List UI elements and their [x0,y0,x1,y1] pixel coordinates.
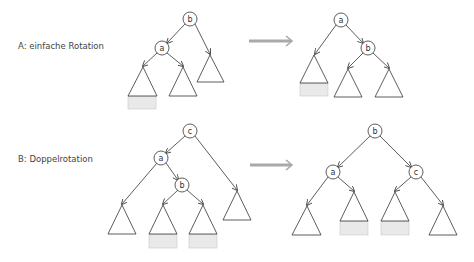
rotation-diagram: b a a b [0,0,474,262]
tree-b-after: b a c [292,124,457,235]
subtree-triangle [429,206,457,235]
subtree-triangle [223,191,251,220]
tree-node: b [175,178,189,192]
svg-text:a: a [339,16,344,25]
tree-b-before: c a b [108,124,251,248]
subtree-triangle [108,205,136,234]
svg-text:b: b [179,181,184,190]
svg-text:c: c [414,168,418,177]
svg-text:a: a [159,154,164,163]
svg-text:b: b [365,44,370,53]
svg-text:b: b [372,127,377,136]
transform-arrow-icon [249,36,292,46]
highlight-box [340,221,368,235]
highlight-box [149,234,177,248]
subtree-triangle [334,69,362,97]
tree-node: a [334,13,348,27]
svg-text:a: a [331,168,336,177]
highlight-box [189,234,217,248]
svg-text:a: a [160,44,165,53]
svg-text:b: b [187,15,192,24]
tree-a-after: a b [300,13,403,97]
transform-arrow-icon [250,160,292,170]
subtree-triangle [189,205,217,234]
subtree-triangle [381,192,409,221]
highlight-box [128,96,156,109]
subtree-triangle [292,206,321,235]
tree-node: b [361,41,375,55]
tree-node: a [326,165,340,179]
subtree-triangle [197,55,224,82]
tree-node: a [155,41,169,55]
tree-node: a [154,151,168,165]
tree-node: b [368,124,382,138]
highlight-box [381,221,409,235]
subtree-triangle [300,55,328,83]
tree-a-before: b a [128,12,224,109]
tree-node: c [409,165,423,179]
svg-text:c: c [188,127,192,136]
subtree-triangle [149,205,177,234]
subtree-triangle [340,192,368,221]
subtree-triangle [128,67,157,96]
subtree-triangle [375,69,403,97]
tree-node: c [183,124,197,138]
subtree-triangle [169,67,197,96]
highlight-box [300,83,328,96]
tree-node: b [183,12,197,26]
